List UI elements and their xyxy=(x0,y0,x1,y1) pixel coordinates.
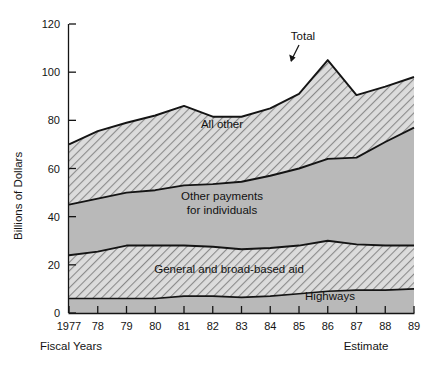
y-axis-tick-label: 100 xyxy=(42,66,60,78)
x-axis-tick-label: 87 xyxy=(350,320,362,332)
y-axis-tick-label: 20 xyxy=(48,259,60,271)
x-axis-tick-label: 83 xyxy=(235,320,247,332)
total-callout-label: Total xyxy=(291,30,315,42)
y-axis-tick-label: 120 xyxy=(42,18,60,30)
label-highways: Highways xyxy=(305,290,355,302)
x-axis-tick-label: 82 xyxy=(207,320,219,332)
y-axis-tick-label: 60 xyxy=(48,163,60,175)
label-other-payments-line2: for individuals xyxy=(187,204,258,216)
x-axis-tick-label: 79 xyxy=(120,320,132,332)
y-axis-tick-label: 0 xyxy=(54,307,60,319)
x-axis-tick-label: 78 xyxy=(92,320,104,332)
total-callout: Total xyxy=(289,30,315,62)
estimate-note: Estimate xyxy=(344,340,389,352)
x-axis-tick-label: 88 xyxy=(379,320,391,332)
chart-canvas: 020406080100120 Billions of Dollars 1977… xyxy=(0,0,434,366)
stacked-area-chart: 020406080100120 Billions of Dollars 1977… xyxy=(0,0,434,366)
label-other-payments-line1: Other payments xyxy=(181,190,263,202)
x-axis-tick-label: 80 xyxy=(149,320,161,332)
y-axis: 020406080100120 Billions of Dollars xyxy=(12,18,76,319)
x-axis: 1977787980818283848586878889 Fiscal Year… xyxy=(40,306,420,352)
x-axis-title: Fiscal Years xyxy=(40,340,102,352)
x-axis-tick-labels: 1977787980818283848586878889 xyxy=(57,320,420,332)
y-axis-tick-label: 80 xyxy=(48,114,60,126)
y-axis-tick-label: 40 xyxy=(48,211,60,223)
x-axis-tick-label: 89 xyxy=(408,320,420,332)
x-axis-tick-label: 86 xyxy=(322,320,334,332)
plot-areas xyxy=(69,60,414,313)
total-callout-arrowhead xyxy=(289,55,295,62)
y-axis-tick-labels: 020406080100120 xyxy=(42,18,60,319)
x-axis-tick-label: 81 xyxy=(178,320,190,332)
x-axis-tick-label: 1977 xyxy=(57,320,81,332)
x-axis-tick-label: 85 xyxy=(293,320,305,332)
label-all-other: All other xyxy=(201,118,243,130)
y-axis-title: Billions of Dollars xyxy=(12,152,24,240)
x-axis-tick-label: 84 xyxy=(264,320,276,332)
label-general-and-broad-based-aid: General and broad-based aid xyxy=(154,263,304,275)
